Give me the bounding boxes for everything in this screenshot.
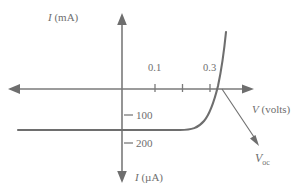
voc-pointer-line bbox=[222, 89, 256, 140]
x-tick-label-0.3: 0.3 bbox=[203, 63, 216, 74]
y-tick-label-100: 100 bbox=[136, 110, 153, 121]
vertical-axis-top-arrow-icon bbox=[117, 13, 127, 25]
vertical-axis-bottom-label: I (µA) bbox=[135, 172, 163, 183]
voc-pointer-arrow-icon bbox=[250, 135, 259, 146]
vertical-axis-bottom-arrow-icon bbox=[117, 171, 127, 183]
x-tick-label-0.1: 0.1 bbox=[148, 63, 161, 74]
y-tick-label-200: 200 bbox=[136, 138, 153, 149]
vertical-axis-top-label: I (mA) bbox=[48, 12, 78, 23]
horizontal-axis-left-arrow-icon bbox=[8, 84, 20, 94]
voc-annotation-label: Voc bbox=[255, 152, 270, 167]
horizontal-axis-right-label: V (volts) bbox=[252, 104, 290, 115]
horizontal-axis-right-arrow-icon bbox=[242, 85, 254, 94]
